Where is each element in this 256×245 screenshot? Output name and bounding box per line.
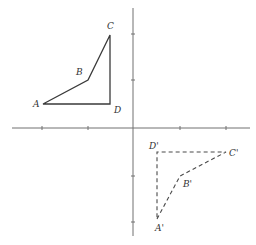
label-b: B: [75, 67, 83, 77]
label-d-prime: D': [148, 141, 159, 151]
label-a-prime: A': [154, 223, 164, 233]
label-a: A: [32, 99, 40, 109]
label-c: C: [107, 21, 114, 31]
label-d: D: [113, 105, 121, 115]
label-c-prime: C': [229, 148, 238, 158]
coordinate-diagram: A B C D A' B' C' D': [0, 0, 256, 245]
label-b-prime: B': [182, 179, 192, 189]
